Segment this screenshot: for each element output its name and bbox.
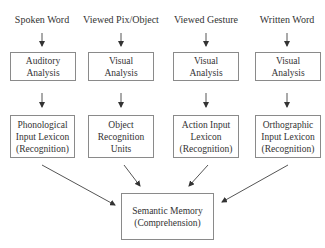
orthographic-input-lexicon-box: Orthographic Input Lexicon (Recognition) [255,115,321,158]
box-label: Visual Analysis [271,55,304,79]
input-written-word: Written Word [247,14,325,25]
visual-analysis-box-object: Visual Analysis [88,52,154,81]
input-spoken-word: Spoken Word [0,14,84,25]
semantic-memory-box: Semantic Memory (Comprehension) [121,193,214,240]
input-viewed-gesture: Viewed Gesture [165,14,247,25]
input-viewed-pix-object: Viewed Pix/Object [80,14,162,25]
box-label: Phonological Input Lexicon (Recognition) [16,119,70,155]
box-label: Action Input Lexicon (Recognition) [180,119,233,155]
phonological-input-lexicon-box: Phonological Input Lexicon (Recognition) [10,115,75,158]
box-label: Object Recognition Units [98,119,144,155]
action-input-lexicon-box: Action Input Lexicon (Recognition) [173,115,239,158]
object-recognition-units-box: Object Recognition Units [88,115,154,158]
box-label: Visual Analysis [189,55,222,79]
auditory-analysis-box: Auditory Analysis [10,52,76,81]
box-label: Visual Analysis [104,55,137,79]
box-label: Orthographic Input Lexicon (Recognition) [261,119,315,155]
box-label: Auditory Analysis [26,55,60,79]
box-label: Semantic Memory (Comprehension) [132,205,202,229]
visual-analysis-box-written: Visual Analysis [255,52,321,81]
visual-analysis-box-gesture: Visual Analysis [173,52,239,81]
